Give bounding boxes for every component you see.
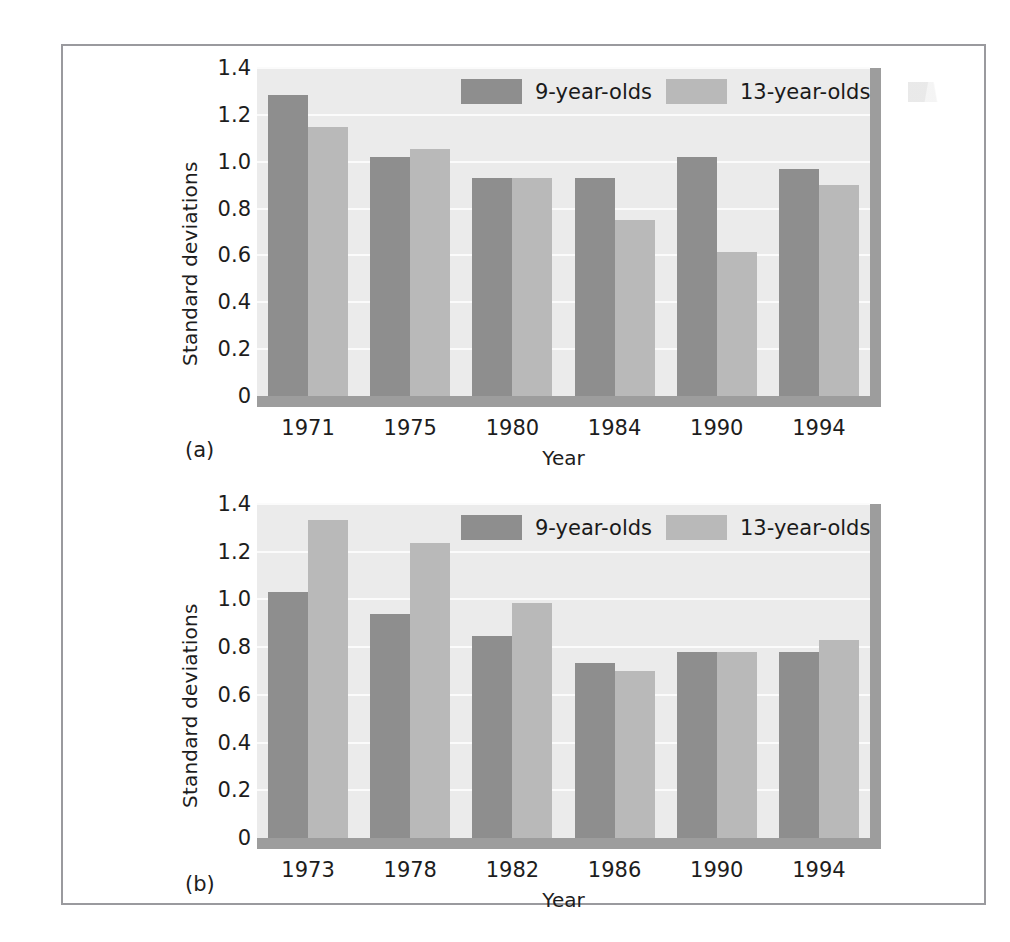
panel-caption-b: (b): [185, 872, 215, 896]
legend-swatch-icon: [461, 79, 522, 104]
y-tick-label: 0.4: [218, 292, 251, 313]
x-tick-label: 1978: [384, 858, 437, 882]
gridline: [257, 114, 870, 116]
chart-legend-b: 9-year-olds13-year-olds: [461, 515, 870, 540]
legend-item: 9-year-olds: [461, 515, 652, 540]
bar: [717, 652, 757, 838]
x-tick-label: 1990: [690, 416, 743, 440]
x-tick-label: 1986: [588, 858, 641, 882]
y-tick-label: 0.8: [218, 198, 251, 219]
y-tick-label: 1.2: [218, 541, 251, 562]
y-axis-tick-labels: 00.20.40.60.81.01.21.4: [185, 68, 251, 396]
plot-area-b: [257, 504, 870, 838]
bar: [779, 169, 819, 396]
legend-label: 13-year-olds: [740, 80, 870, 104]
bar: [575, 663, 615, 838]
legend-item: 13-year-olds: [666, 515, 870, 540]
x-tick-label: 1982: [486, 858, 539, 882]
legend-label: 13-year-olds: [740, 516, 870, 540]
x-tick-label: 1980: [486, 416, 539, 440]
plot-right-edge: [870, 504, 881, 838]
chart-legend-a: 9-year-olds13-year-olds: [461, 79, 870, 104]
gridline: [257, 161, 870, 163]
legend-label: 9-year-olds: [535, 80, 652, 104]
legend-item: 9-year-olds: [461, 79, 652, 104]
bar: [308, 520, 348, 838]
y-tick-label: 0.2: [218, 780, 251, 801]
bar: [268, 592, 308, 838]
y-axis-tick-labels: 00.20.40.60.81.01.21.4: [185, 504, 251, 838]
bar: [677, 652, 717, 838]
bar: [472, 178, 512, 396]
y-tick-label: 0.2: [218, 339, 251, 360]
gridline: [257, 646, 870, 648]
x-tick-label: 1994: [792, 416, 845, 440]
y-tick-label: 0: [238, 828, 251, 849]
bar: [779, 652, 819, 838]
bar: [615, 220, 655, 396]
gridline: [257, 503, 870, 505]
bar: [512, 178, 552, 396]
x-tick-label: 1973: [281, 858, 334, 882]
bar: [677, 157, 717, 396]
y-tick-label: 1.4: [218, 494, 251, 515]
y-tick-label: 0.4: [218, 732, 251, 753]
x-tick-label: 1994: [792, 858, 845, 882]
y-tick-label: 0.8: [218, 637, 251, 658]
bar: [370, 614, 410, 838]
figure-frame: Standard deviations 00.20.40.60.81.01.21…: [61, 44, 986, 905]
x-tick-label: 1984: [588, 416, 641, 440]
x-axis-label: Year: [257, 888, 870, 912]
bar: [370, 157, 410, 396]
y-tick-label: 1.0: [218, 589, 251, 610]
y-tick-label: 1.2: [218, 104, 251, 125]
x-tick-label: 1975: [384, 416, 437, 440]
legend-item: 13-year-olds: [666, 79, 870, 104]
legend-swatch-icon: [461, 515, 522, 540]
chart-panel-a: Standard deviations 00.20.40.60.81.01.21…: [63, 48, 988, 466]
bar: [717, 252, 757, 396]
bar: [819, 185, 859, 396]
y-tick-label: 1.0: [218, 151, 251, 172]
bar: [512, 603, 552, 838]
legend-swatch-icon: [666, 515, 727, 540]
gridline: [257, 551, 870, 553]
bar: [410, 149, 450, 396]
bar: [472, 636, 512, 838]
y-tick-label: 0.6: [218, 684, 251, 705]
chart-panel-b: Standard deviations 00.20.40.60.81.01.21…: [63, 466, 988, 906]
gridline: [257, 598, 870, 600]
bar: [410, 543, 450, 838]
y-tick-label: 0: [238, 386, 251, 407]
legend-label: 9-year-olds: [535, 516, 652, 540]
plot-base-bar: [257, 838, 881, 849]
plot-right-edge: [870, 68, 881, 396]
bar: [268, 95, 308, 396]
bar: [819, 640, 859, 838]
plot-base-bar: [257, 396, 881, 407]
bar: [308, 127, 348, 396]
gridline: [257, 67, 870, 69]
y-tick-label: 1.4: [218, 58, 251, 79]
bar: [615, 671, 655, 838]
y-tick-label: 0.6: [218, 245, 251, 266]
legend-swatch-icon: [666, 79, 727, 104]
x-tick-label: 1971: [281, 416, 334, 440]
bar: [575, 178, 615, 396]
plot-area-a: [257, 68, 870, 396]
x-tick-label: 1990: [690, 858, 743, 882]
panel-caption-a: (a): [185, 438, 214, 462]
